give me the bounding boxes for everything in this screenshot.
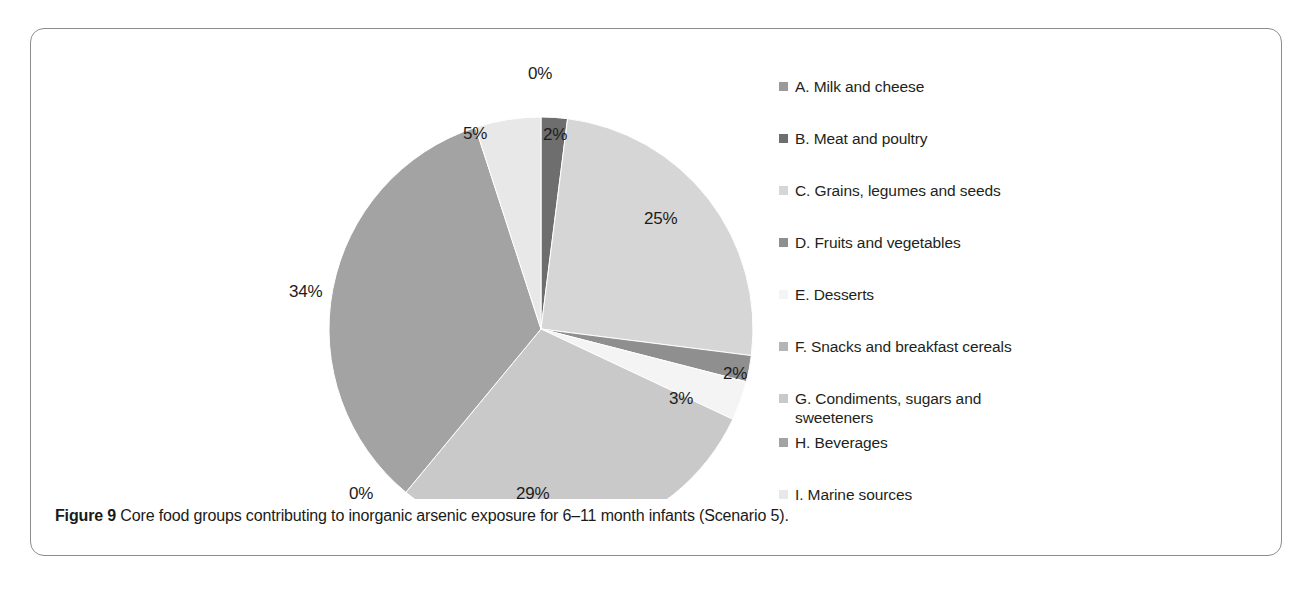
legend-swatch-icon [779, 490, 788, 499]
pie-slice-group [329, 117, 753, 499]
legend-swatch-icon [779, 438, 788, 447]
figure-caption: Figure 9 Core food groups contributing t… [55, 507, 1255, 525]
legend-item-label: F. Snacks and breakfast cereals [795, 337, 1012, 356]
legend-item-b[interactable]: B. Meat and poultry [779, 129, 928, 148]
legend-item-a[interactable]: A. Milk and cheese [779, 77, 924, 96]
pie-slice-label: 25% [644, 209, 677, 229]
legend-item-g[interactable]: G. Condiments, sugars and sweeteners [779, 389, 981, 427]
pie-slice-label: 2% [543, 125, 567, 145]
pie-slice-label: 2% [723, 364, 747, 384]
pie-slice-label: 0% [528, 64, 552, 84]
legend-item-f[interactable]: F. Snacks and breakfast cereals [779, 337, 1012, 356]
pie-slice-label: 29% [516, 484, 549, 504]
legend-item-label: D. Fruits and vegetables [795, 233, 961, 252]
pie-slice-label: 0% [349, 484, 373, 504]
figure-panel: 0%2%25%2%3%29%0%34%5% A. Milk and cheese… [30, 28, 1282, 556]
legend-item-d[interactable]: D. Fruits and vegetables [779, 233, 961, 252]
legend-swatch-icon [779, 134, 788, 143]
legend-item-c[interactable]: C. Grains, legumes and seeds [779, 181, 1001, 200]
legend-item-h[interactable]: H. Beverages [779, 433, 888, 452]
pie-chart: 0%2%25%2%3%29%0%34%5% [31, 29, 771, 499]
legend-item-label: I. Marine sources [795, 485, 912, 504]
legend-item-label: G. Condiments, sugars and sweeteners [795, 389, 981, 427]
legend-item-label: B. Meat and poultry [795, 129, 928, 148]
caption-text: Core food groups contributing to inorgan… [116, 507, 789, 524]
legend-swatch-icon [779, 290, 788, 299]
legend-swatch-icon [779, 82, 788, 91]
caption-prefix: Figure 9 [55, 507, 116, 524]
legend-item-e[interactable]: E. Desserts [779, 285, 874, 304]
pie-slice [541, 119, 753, 356]
legend-item-label: A. Milk and cheese [795, 77, 924, 96]
legend-swatch-icon [779, 342, 788, 351]
pie-slice-label: 3% [669, 389, 693, 409]
pie-slice-label: 5% [463, 124, 487, 144]
legend-swatch-icon [779, 186, 788, 195]
legend-item-label: E. Desserts [795, 285, 874, 304]
pie-svg [31, 29, 771, 499]
legend-item-label: C. Grains, legumes and seeds [795, 181, 1001, 200]
legend-item-label: H. Beverages [795, 433, 888, 452]
legend-swatch-icon [779, 238, 788, 247]
pie-slice-label: 34% [289, 282, 322, 302]
legend-swatch-icon [779, 394, 788, 403]
legend-item-i[interactable]: I. Marine sources [779, 485, 912, 504]
